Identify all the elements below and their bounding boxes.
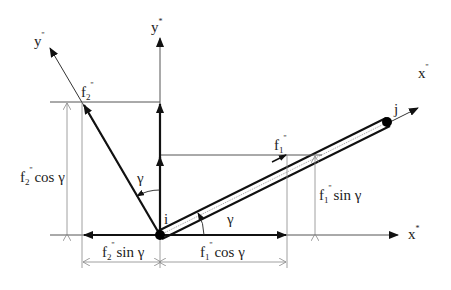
force-diagram: y'' y* x'' x* i j f2'' f1'' γ γ f2''cos … <box>0 0 451 290</box>
diagram-canvas: y'' y* x'' x* i j f2'' f1'' γ γ f2''cos … <box>0 0 451 290</box>
label-global-y: y* <box>151 17 163 35</box>
node-i <box>155 230 165 240</box>
angle-arc-gamma-local-y <box>137 190 160 196</box>
label-force-f2: f2'' <box>81 81 94 102</box>
label-angle-gamma-upper: γ <box>136 170 144 186</box>
label-dim-f2-sin: f2''sin γ <box>102 241 145 262</box>
angle-arc-gamma-local-x <box>198 213 204 235</box>
label-node-i: i <box>164 211 168 227</box>
force-f1-vector <box>272 155 286 162</box>
label-node-j: j <box>393 101 398 117</box>
force-f2-vector <box>84 105 160 235</box>
label-global-x: x* <box>408 224 420 242</box>
local-x-axis <box>388 108 418 123</box>
label-dim-f2-cos: f2''cos γ <box>20 166 65 187</box>
label-dim-f1-sin: f1''sin γ <box>319 184 362 205</box>
label-local-y: y'' <box>34 31 45 49</box>
label-dim-f1-cos: f1''cos γ <box>200 241 245 262</box>
label-force-f1: f1'' <box>274 134 287 155</box>
label-local-x: x'' <box>418 63 429 81</box>
node-j <box>382 117 392 127</box>
label-angle-gamma-lower: γ <box>226 211 234 227</box>
